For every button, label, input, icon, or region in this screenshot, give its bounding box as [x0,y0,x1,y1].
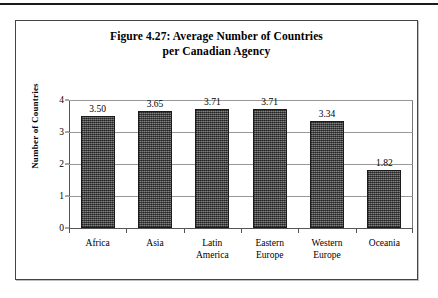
bar[interactable] [367,170,401,228]
x-tick-mark [184,229,185,233]
x-label-line-1: Africa [86,238,110,248]
bar-value-label: 1.82 [376,158,393,168]
x-axis-category-label: Africa [86,237,110,249]
bar[interactable] [138,111,172,228]
x-tick-mark [412,229,413,233]
x-tick-mark [69,229,70,233]
chart-figure-frame: Figure 4.27: Average Number of Countries… [15,20,418,280]
x-axis-category-label: WesternEurope [312,237,343,261]
x-axis-category-label: LatinAmerica [196,237,229,261]
bar[interactable] [81,116,115,228]
bar-group: 1.82 [356,100,413,228]
bar-value-label: 3.50 [89,104,106,114]
bar[interactable] [195,109,229,228]
x-label-line-1: Oceania [369,238,400,248]
y-tick-label: 1 [59,191,64,201]
x-axis-category-label: Oceania [369,237,400,249]
x-label-line-1: Eastern [255,238,284,248]
bars-layer: 3.503.653.713.713.341.82 [69,100,413,229]
bar[interactable] [310,121,344,228]
bar-value-label: 3.71 [261,97,278,107]
x-tick-mark [298,229,299,233]
bar-group: 3.71 [241,100,298,228]
x-tick-mark [126,229,127,233]
page-top-rule [0,3,438,5]
chart-title-line-1: Figure 4.27: Average Number of Countries [16,29,417,44]
x-axis-category-label: Asia [146,237,163,249]
bar[interactable] [253,109,287,228]
x-label-line-2: Europe [255,249,284,261]
x-axis-category-label: EasternEurope [255,237,284,261]
bar-group: 3.65 [126,100,183,228]
x-tick-mark [241,229,242,233]
bar-group: 3.34 [298,100,355,228]
y-tick-label: 3 [59,127,64,137]
x-label-line-1: Asia [146,238,163,248]
x-tick-mark [356,229,357,233]
bar-group: 3.71 [184,100,241,228]
y-tick-label: 2 [59,159,64,169]
x-label-line-1: Latin [202,238,222,248]
bar-value-label: 3.65 [147,99,164,109]
y-axis-title: Number of Countries [30,66,40,186]
y-tick-label: 0 [59,223,64,233]
x-label-line-2: Europe [312,249,343,261]
chart-title: Figure 4.27: Average Number of Countries… [16,29,417,59]
bar-value-label: 3.34 [319,109,336,119]
x-label-line-2: America [196,249,229,261]
y-tick-label: 4 [59,95,64,105]
chart-title-line-2: per Canadian Agency [16,44,417,59]
bar-value-label: 3.71 [204,97,221,107]
x-label-line-1: Western [312,238,343,248]
plot-area: 01234 3.503.653.713.713.341.82 AfricaAsi… [69,100,413,229]
bar-group: 3.50 [69,100,126,228]
